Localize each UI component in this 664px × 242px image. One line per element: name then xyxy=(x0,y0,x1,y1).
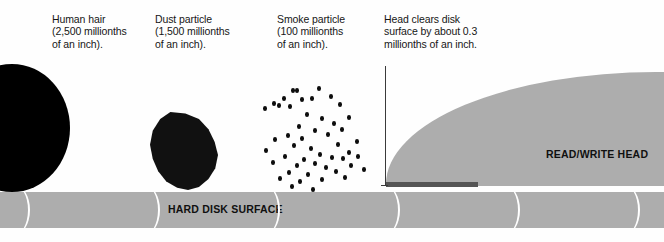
smoke-particle-dot xyxy=(309,146,313,151)
smoke-particle-dot xyxy=(313,161,317,166)
smoke-particle-dot xyxy=(330,155,334,160)
smoke-particle-dot xyxy=(288,104,292,109)
smoke-particle-dot xyxy=(317,86,321,91)
hard-disk-surface-band: HARD DISK SURFACE xyxy=(0,192,664,228)
read-write-head-label: READ/WRITE HEAD xyxy=(546,148,648,160)
smoke-particle-dot xyxy=(282,96,286,101)
smoke-particle-dot xyxy=(302,157,306,162)
smoke-particle-dot xyxy=(355,139,359,144)
smoke-particle-dot xyxy=(320,177,324,182)
smoke-particle-dot xyxy=(329,94,333,99)
smoke-particle-dot xyxy=(318,152,322,157)
smoke-particle-dot xyxy=(306,172,310,177)
smoke-particle-dot xyxy=(305,112,309,117)
smoke-particle-dot xyxy=(300,97,304,102)
smoke-particle-dot xyxy=(320,116,324,121)
smoke-particle-dot xyxy=(264,148,268,153)
disk-surface-arc-divider xyxy=(246,192,280,228)
smoke-particle-dot xyxy=(311,187,315,192)
smoke-particle-dot xyxy=(297,124,301,129)
smoke-particle-dot xyxy=(347,115,351,120)
smoke-particle-dot xyxy=(362,167,366,172)
disk-surface-arc-divider xyxy=(126,192,160,228)
smoke-particle-dot xyxy=(272,101,276,106)
smoke-particle-dot xyxy=(336,142,340,147)
smoke-particle-dot xyxy=(343,175,347,180)
smoke-particle-dot xyxy=(300,136,304,141)
smoke-particle-dot xyxy=(349,163,353,168)
hard-disk-scale-diagram: Human hair (2,500 millionths of an inch)… xyxy=(0,0,664,242)
smoke-particle-dot xyxy=(283,154,287,159)
smoke-particle-dot xyxy=(298,179,302,184)
smoke-particle-dot xyxy=(295,88,299,93)
clearance-measurement-line xyxy=(385,66,386,186)
smoke-particle-dot xyxy=(287,170,291,175)
smoke-particle-dot xyxy=(263,106,267,111)
disk-surface-arc-divider xyxy=(606,192,640,228)
smoke-particle-dot xyxy=(338,102,342,107)
smoke-particle-dot xyxy=(334,169,338,174)
smoke-particle-dot xyxy=(332,121,336,126)
disk-surface-arc-divider xyxy=(0,192,30,228)
smoke-particle-dot xyxy=(326,132,330,137)
smoke-particle-dot xyxy=(277,103,281,108)
head-gap-bar xyxy=(386,182,478,187)
smoke-particle-dot xyxy=(347,150,351,155)
disk-surface-arc-divider xyxy=(486,192,520,228)
clearance-measurement-foot xyxy=(381,185,388,186)
smoke-particle-dot xyxy=(356,154,360,159)
smoke-particle-dot xyxy=(278,176,282,181)
smoke-particle-dot xyxy=(271,160,275,165)
smoke-particle-dot xyxy=(313,128,317,133)
smoke-particle-dot xyxy=(286,133,290,138)
smoke-particle-dot xyxy=(273,137,277,142)
smoke-particle-dot xyxy=(295,163,299,168)
smoke-particle-dot xyxy=(324,165,328,170)
smoke-particle-dot xyxy=(310,96,314,101)
smoke-particle-dot xyxy=(290,184,294,189)
smoke-particle-dot xyxy=(292,143,296,148)
smoke-particle-dot xyxy=(341,156,345,161)
disk-surface-arc-divider xyxy=(366,192,400,228)
smoke-particle-dot xyxy=(340,127,344,132)
